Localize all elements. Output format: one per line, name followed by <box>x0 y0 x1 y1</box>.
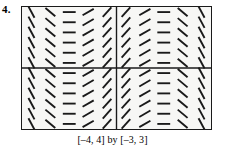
slope-segment <box>45 18 55 26</box>
slope-segment <box>103 89 112 99</box>
slope-segment <box>139 70 150 76</box>
slope-segment <box>139 19 150 25</box>
slope-segment <box>28 88 34 99</box>
slope-segment <box>139 90 150 96</box>
slope-segment <box>83 70 94 76</box>
slope-segment <box>103 17 112 27</box>
slope-segment <box>178 110 188 118</box>
slope-segment <box>45 110 55 118</box>
slope-segment <box>83 90 94 96</box>
window-range-caption: [–4, 4] by [–3, 3] <box>0 134 225 145</box>
slope-segment <box>45 59 55 67</box>
slope-segment <box>83 100 94 106</box>
slope-segment <box>199 17 205 28</box>
slope-segment <box>103 38 112 48</box>
slope-segment <box>178 49 188 57</box>
slope-segment <box>178 120 188 128</box>
slope-segment <box>28 37 34 48</box>
slope-segment <box>103 109 112 119</box>
slope-segment <box>139 60 150 66</box>
slope-segment <box>178 79 188 87</box>
slope-segment <box>122 38 131 48</box>
slope-segment <box>122 68 131 78</box>
slope-segment <box>199 47 205 58</box>
slope-segment <box>199 98 205 109</box>
slope-segment <box>199 118 205 129</box>
slope-segment <box>178 69 188 77</box>
slope-segment <box>103 68 112 78</box>
slope-segment <box>122 48 131 58</box>
slope-segment <box>199 78 205 89</box>
slope-segment <box>139 50 150 56</box>
slope-segment <box>45 120 55 128</box>
slope-segment <box>28 17 34 28</box>
slope-segment <box>122 109 131 119</box>
slope-segment <box>83 121 94 127</box>
slope-segment <box>139 80 150 86</box>
slope-segment <box>83 50 94 56</box>
slope-field-canvas <box>22 7 211 129</box>
slope-segment <box>122 119 131 129</box>
slope-segment <box>83 9 94 15</box>
slope-segment <box>28 27 34 38</box>
slope-segment <box>28 78 34 89</box>
slope-segment <box>28 57 34 68</box>
slope-segment <box>178 89 188 97</box>
slope-segment <box>139 111 150 117</box>
slope-segment <box>103 48 112 58</box>
slope-segment <box>199 37 205 48</box>
slope-segment <box>83 39 94 45</box>
slope-segment <box>178 59 188 67</box>
slope-segment <box>139 29 150 35</box>
slope-segment <box>122 99 131 109</box>
slope-segment <box>45 38 55 46</box>
slope-segment <box>199 88 205 99</box>
slope-segment <box>139 39 150 45</box>
slope-segment <box>122 58 131 68</box>
axis-layer <box>22 7 211 129</box>
slope-segment <box>28 7 34 18</box>
slope-segment <box>122 17 131 27</box>
slope-segment <box>45 99 55 107</box>
slope-segment <box>103 7 112 17</box>
slope-segment <box>103 119 112 129</box>
slope-segment <box>199 27 205 38</box>
slope-segment <box>122 78 131 88</box>
slope-segment <box>139 100 150 106</box>
slope-segment <box>178 28 188 36</box>
slope-field-figure: 4. [–4, 4] by [–3, 3] <box>0 0 225 155</box>
slope-segment <box>199 57 205 68</box>
slope-segment <box>199 7 205 18</box>
slope-segment <box>199 67 205 78</box>
slope-segment <box>83 111 94 117</box>
slope-segment <box>122 7 131 17</box>
plot-frame <box>21 6 212 130</box>
slope-segment <box>103 99 112 109</box>
slope-segment <box>45 49 55 57</box>
slope-segment <box>122 89 131 99</box>
slope-segment <box>178 38 188 46</box>
slope-segment <box>178 8 188 16</box>
slope-segment <box>178 18 188 26</box>
slope-segment <box>103 78 112 88</box>
slope-segment <box>45 69 55 77</box>
slope-segment <box>139 9 150 15</box>
slope-segment <box>28 67 34 78</box>
slope-segment <box>199 108 205 119</box>
slope-segment <box>28 118 34 129</box>
slope-segment <box>103 28 112 38</box>
slope-segment <box>178 99 188 107</box>
slope-segment <box>28 47 34 58</box>
slope-segment <box>28 98 34 109</box>
slope-segment <box>83 19 94 25</box>
slope-segment <box>45 79 55 87</box>
slope-segment <box>83 80 94 86</box>
slope-segment <box>45 28 55 36</box>
slope-segment <box>122 28 131 38</box>
slope-segment <box>28 108 34 119</box>
slope-segment <box>45 8 55 16</box>
slope-segment <box>139 121 150 127</box>
problem-number-label: 4. <box>2 3 11 16</box>
slope-segment <box>45 89 55 97</box>
slope-segment <box>83 60 94 66</box>
